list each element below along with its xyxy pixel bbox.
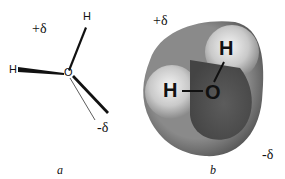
panel-b-hydrogen-top: H	[219, 38, 233, 58]
panel-b-space-filling-model	[143, 21, 263, 156]
panel-b-oxygen: O	[205, 82, 221, 102]
panel-b-positive-charge: +δ	[153, 14, 168, 28]
panel-b-hydrogen-left: H	[163, 80, 177, 100]
panel-b-negative-charge: -δ	[262, 148, 273, 162]
bond-o-h-left	[18, 67, 64, 75]
panel-a-hydrogen-top: H	[83, 11, 91, 22]
panel-a-hydrogen-left: H	[9, 64, 17, 75]
bond-o-h-top	[68, 27, 87, 71]
oxygen-sphere	[190, 60, 252, 140]
lone-pair-wedge	[72, 75, 109, 114]
panel-b-caption: b	[210, 164, 216, 176]
panel-a-caption: a	[57, 164, 63, 176]
panel-a-negative-charge: -δ	[97, 121, 108, 135]
panel-a-oxygen: O	[64, 67, 73, 78]
panel-a-positive-charge: +δ	[32, 22, 47, 36]
